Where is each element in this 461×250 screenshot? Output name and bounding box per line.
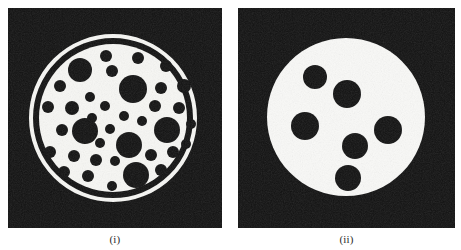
panel-ii [238, 8, 455, 228]
panel-i [8, 8, 222, 228]
film-grain [238, 8, 455, 228]
panel-i-caption: (i) [8, 232, 222, 246]
panel-ii-caption: (ii) [238, 232, 455, 246]
figure-container: (i) (ii) [0, 0, 461, 250]
film-grain [8, 8, 222, 228]
